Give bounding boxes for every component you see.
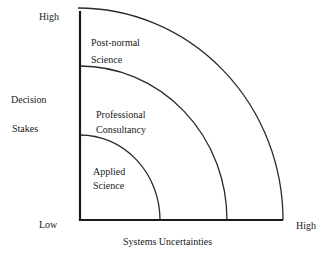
region-professional-line2: Consultancy <box>96 124 146 136</box>
region-applied-line2: Science <box>93 180 124 192</box>
x-axis-title: Systems Uncertainties <box>123 236 212 248</box>
region-post-normal-line2: Science <box>91 54 122 66</box>
arc-professional-consultancy <box>80 66 227 220</box>
region-applied-line1: Applied <box>93 166 125 178</box>
y-axis-title-line2: Stakes <box>12 123 38 135</box>
region-post-normal-line1: Post-normal <box>91 37 140 49</box>
x-axis-high-label: High <box>296 220 316 232</box>
region-professional-line1: Professional <box>96 109 145 121</box>
y-axis-high-label: High <box>39 11 59 23</box>
y-axis-low-label: Low <box>39 219 57 231</box>
y-axis-title-line1: Decision <box>11 94 47 106</box>
